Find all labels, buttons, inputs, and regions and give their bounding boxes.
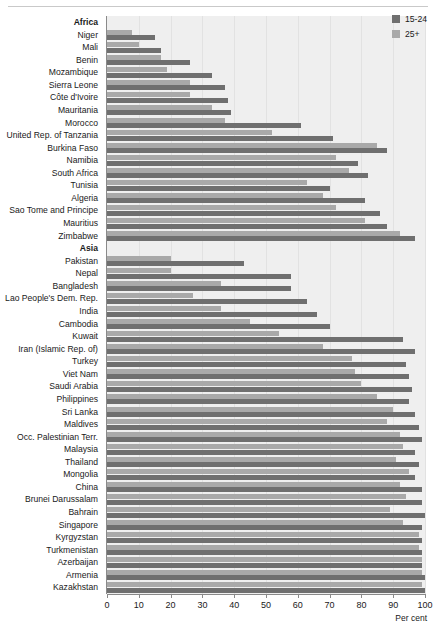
bar-young-15-24[interactable] <box>107 500 422 505</box>
bar-young-15-24[interactable] <box>107 525 422 530</box>
chart-row[interactable]: Zimbabwe <box>0 230 433 243</box>
chart-row[interactable]: Côte d'Ivoire <box>0 91 433 104</box>
chart-row[interactable]: Algeria <box>0 192 433 205</box>
chart-row[interactable]: Mongolia <box>0 468 433 481</box>
bar-young-15-24[interactable] <box>107 123 301 128</box>
chart-row[interactable]: Lao People's Dem. Rep. <box>0 292 433 305</box>
chart-row[interactable]: Turkmenistan <box>0 544 433 557</box>
chart-row[interactable]: Cambodia <box>0 318 433 331</box>
chart-row[interactable]: Azerbaijan <box>0 556 433 569</box>
chart-row[interactable]: Nepal <box>0 267 433 280</box>
bar-young-15-24[interactable] <box>107 462 419 467</box>
bar-young-15-24[interactable] <box>107 261 244 266</box>
chart-row[interactable]: China <box>0 481 433 494</box>
bar-older-25plus[interactable] <box>107 356 352 361</box>
chart-row[interactable]: Bangladesh <box>0 280 433 293</box>
bar-older-25plus[interactable] <box>107 30 132 35</box>
bar-young-15-24[interactable] <box>107 374 409 379</box>
bar-older-25plus[interactable] <box>107 582 422 587</box>
bar-older-25plus[interactable] <box>107 130 272 135</box>
chart-row[interactable]: Sierra Leone <box>0 79 433 92</box>
chart-row[interactable]: Mozambique <box>0 66 433 79</box>
chart-row[interactable]: Philippines <box>0 393 433 406</box>
bar-older-25plus[interactable] <box>107 118 225 123</box>
bar-young-15-24[interactable] <box>107 211 380 216</box>
bar-older-25plus[interactable] <box>107 381 361 386</box>
legend-item-older[interactable]: 25+ <box>392 29 427 39</box>
bar-older-25plus[interactable] <box>107 193 323 198</box>
bar-young-15-24[interactable] <box>107 487 422 492</box>
bar-older-25plus[interactable] <box>107 507 390 512</box>
bar-young-15-24[interactable] <box>107 60 190 65</box>
chart-row[interactable]: Thailand <box>0 456 433 469</box>
bar-young-15-24[interactable] <box>107 35 155 40</box>
bar-older-25plus[interactable] <box>107 419 387 424</box>
bar-older-25plus[interactable] <box>107 180 307 185</box>
bar-older-25plus[interactable] <box>107 67 167 72</box>
chart-row[interactable]: South Africa <box>0 167 433 180</box>
bar-older-25plus[interactable] <box>107 532 419 537</box>
bar-older-25plus[interactable] <box>107 231 400 236</box>
bar-young-15-24[interactable] <box>107 110 231 115</box>
bar-young-15-24[interactable] <box>107 513 425 518</box>
chart-row[interactable]: Iran (Islamic Rep. of) <box>0 343 433 356</box>
bar-young-15-24[interactable] <box>107 450 415 455</box>
bar-young-15-24[interactable] <box>107 299 307 304</box>
bar-young-15-24[interactable] <box>107 475 415 480</box>
chart-row[interactable]: Tunisia <box>0 179 433 192</box>
chart-row[interactable]: Africa <box>0 16 433 29</box>
bar-young-15-24[interactable] <box>107 148 387 153</box>
bar-older-25plus[interactable] <box>107 394 377 399</box>
chart-row[interactable]: Brunei Darussalam <box>0 493 433 506</box>
bar-young-15-24[interactable] <box>107 349 415 354</box>
chart-row[interactable]: Asia <box>0 242 433 255</box>
bar-older-25plus[interactable] <box>107 92 190 97</box>
bar-older-25plus[interactable] <box>107 256 171 261</box>
legend-item-young[interactable]: 15-24 <box>392 14 427 24</box>
bar-young-15-24[interactable] <box>107 224 387 229</box>
bar-young-15-24[interactable] <box>107 550 422 555</box>
bar-older-25plus[interactable] <box>107 432 400 437</box>
chart-row[interactable]: Turkey <box>0 355 433 368</box>
chart-row[interactable]: Mali <box>0 41 433 54</box>
bar-older-25plus[interactable] <box>107 319 250 324</box>
bar-young-15-24[interactable] <box>107 362 406 367</box>
chart-row[interactable]: India <box>0 305 433 318</box>
bar-young-15-24[interactable] <box>107 236 415 241</box>
bar-young-15-24[interactable] <box>107 73 212 78</box>
chart-row[interactable]: Saudi Arabia <box>0 380 433 393</box>
bar-older-25plus[interactable] <box>107 268 171 273</box>
chart-row[interactable]: Namibia <box>0 154 433 167</box>
bar-young-15-24[interactable] <box>107 425 419 430</box>
bar-older-25plus[interactable] <box>107 281 221 286</box>
bar-older-25plus[interactable] <box>107 168 349 173</box>
bar-older-25plus[interactable] <box>107 545 419 550</box>
chart-row[interactable]: Kazakhstan <box>0 581 433 594</box>
bar-young-15-24[interactable] <box>107 286 291 291</box>
bar-young-15-24[interactable] <box>107 387 412 392</box>
bar-older-25plus[interactable] <box>107 520 403 525</box>
bar-young-15-24[interactable] <box>107 98 228 103</box>
chart-row[interactable]: Singapore <box>0 519 433 532</box>
bar-young-15-24[interactable] <box>107 337 403 342</box>
bar-young-15-24[interactable] <box>107 324 330 329</box>
chart-row[interactable]: Bahrain <box>0 506 433 519</box>
bar-young-15-24[interactable] <box>107 538 422 543</box>
bar-older-25plus[interactable] <box>107 469 409 474</box>
chart-row[interactable]: United Rep. of Tanzania <box>0 129 433 142</box>
chart-row[interactable]: Viet Nam <box>0 368 433 381</box>
chart-row[interactable]: Kyrgyzstan <box>0 531 433 544</box>
bar-young-15-24[interactable] <box>107 186 330 191</box>
bar-young-15-24[interactable] <box>107 588 425 593</box>
bar-young-15-24[interactable] <box>107 161 358 166</box>
bar-older-25plus[interactable] <box>107 218 365 223</box>
chart-row[interactable]: Occ. Palestinian Terr. <box>0 431 433 444</box>
bar-older-25plus[interactable] <box>107 494 406 499</box>
bar-older-25plus[interactable] <box>107 143 377 148</box>
bar-older-25plus[interactable] <box>107 306 221 311</box>
chart-row[interactable]: Benin <box>0 54 433 67</box>
chart-row[interactable]: Mauritius <box>0 217 433 230</box>
chart-row[interactable]: Sri Lanka <box>0 406 433 419</box>
bar-young-15-24[interactable] <box>107 173 368 178</box>
bar-young-15-24[interactable] <box>107 312 317 317</box>
